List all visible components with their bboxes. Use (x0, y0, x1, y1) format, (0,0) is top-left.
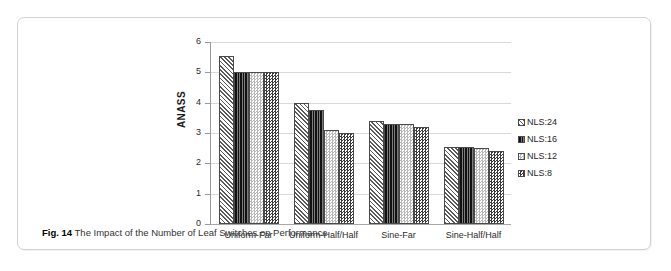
legend-swatch-icon (518, 170, 525, 177)
bar[interactable] (234, 72, 249, 224)
bar[interactable] (459, 147, 474, 224)
bar[interactable] (489, 151, 504, 224)
bar[interactable] (339, 133, 354, 224)
bar-group (219, 42, 279, 224)
legend-item[interactable]: NLS:8 (518, 165, 557, 182)
bar[interactable] (249, 72, 264, 224)
y-axis-tick-label: 2 (175, 158, 201, 167)
bar[interactable] (384, 124, 399, 224)
legend-swatch-icon (518, 136, 525, 143)
legend-label: NLS:24 (527, 118, 557, 127)
y-axis-tick (205, 224, 210, 225)
bar[interactable] (474, 148, 489, 224)
bar-group (369, 42, 429, 224)
bar[interactable] (414, 127, 429, 224)
y-axis-tick (205, 72, 210, 73)
legend-item[interactable]: NLS:16 (518, 131, 557, 148)
gridline (211, 224, 511, 225)
bar-group (294, 42, 354, 224)
y-axis-tick (205, 133, 210, 134)
legend-label: NLS:8 (527, 169, 552, 178)
bar[interactable] (219, 56, 234, 224)
legend-label: NLS:12 (527, 152, 557, 161)
figure-caption-number: Fig. 14 (42, 227, 72, 238)
bar[interactable] (444, 147, 459, 224)
figure-caption: Fig. 14 The Impact of the Number of Leaf… (42, 227, 328, 238)
bar-group (444, 42, 504, 224)
legend-swatch-icon (518, 119, 525, 126)
bar[interactable] (264, 72, 279, 224)
bar[interactable] (399, 124, 414, 224)
y-axis-tick (205, 103, 210, 104)
x-axis-label: Sine-Half/Half (414, 231, 534, 240)
legend-label: NLS:16 (527, 135, 557, 144)
bar[interactable] (324, 130, 339, 224)
legend-swatch-icon (518, 153, 525, 160)
y-axis-tick-label: 5 (175, 67, 201, 76)
y-axis-tick (205, 194, 210, 195)
y-axis-tick (205, 42, 210, 43)
y-axis-tick-label: 3 (175, 128, 201, 137)
figure-caption-text: The Impact of the Number of Leaf Switche… (75, 227, 328, 238)
y-axis-tick (205, 163, 210, 164)
chart-legend: NLS:24NLS:16NLS:12NLS:8 (518, 114, 557, 182)
legend-item[interactable]: NLS:12 (518, 148, 557, 165)
bar[interactable] (369, 121, 384, 224)
y-axis-tick-label: 1 (175, 189, 201, 198)
bar[interactable] (309, 110, 324, 224)
bar[interactable] (294, 103, 309, 224)
y-axis-tick-label: 4 (175, 98, 201, 107)
bars-layer (211, 42, 511, 224)
figure-container: ANASS 6543210 Uniform-FarUniform-Half/Ha… (17, 17, 651, 250)
legend-item[interactable]: NLS:24 (518, 114, 557, 131)
y-axis-tick-label: 6 (175, 37, 201, 46)
plot-area (211, 42, 511, 224)
